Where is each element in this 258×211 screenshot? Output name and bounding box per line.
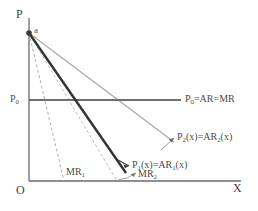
ar1-curve (29, 33, 126, 173)
p0-line-label: P0=AR=MR (185, 94, 235, 106)
ar2-mid: (x)=AR (186, 131, 217, 142)
mr2-curve-label: MR2 (138, 169, 157, 181)
ar2-leader (161, 138, 174, 150)
mr2-sub: 2 (154, 173, 157, 180)
p0-tick-sub: 0 (16, 98, 19, 105)
point-a-marker (26, 30, 32, 36)
mr2-curve (29, 33, 117, 181)
ar1-tail: (x) (176, 159, 188, 170)
mr2-base: MR (138, 168, 154, 179)
p0-axis-tick-label: P0 (10, 94, 19, 106)
origin-label: O (16, 184, 25, 196)
ar2-curve (29, 33, 174, 142)
p0-line-rest: =AR=MR (194, 93, 235, 104)
economics-revenue-curves-figure: P O X a P0 P0=AR=MR P2(x)=AR2(x) P1(x)=A… (0, 0, 258, 211)
point-a-label: a (34, 26, 38, 35)
y-axis-label: P (16, 8, 23, 20)
mr1-sub: 1 (82, 171, 85, 178)
x-axis-label: X (233, 182, 242, 194)
ar2-tail: (x) (221, 131, 233, 142)
mr1-curve-label: MR1 (66, 167, 85, 179)
mr1-base: MR (66, 166, 82, 177)
ar2-curve-label: P2(x)=AR2(x) (177, 132, 232, 144)
mr2-leader (118, 173, 136, 180)
